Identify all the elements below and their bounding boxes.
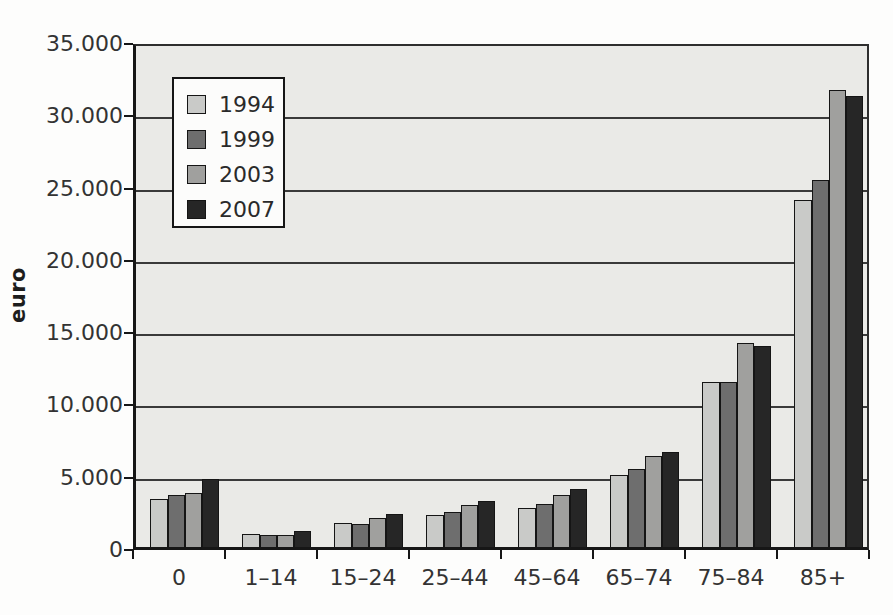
- gridline: [136, 262, 867, 264]
- bar-1999-15–24: [352, 524, 369, 547]
- bar-2003-75–84: [737, 343, 754, 547]
- x-tick-mark: [408, 550, 410, 559]
- legend-label: 2007: [219, 197, 275, 222]
- x-tick-mark: [592, 550, 594, 559]
- bar-2003-0: [185, 493, 202, 547]
- legend-item-1999: 1999: [187, 122, 283, 157]
- y-tick-mark: [124, 43, 133, 45]
- bar-2007-25–44: [478, 501, 495, 547]
- y-tick-label: 10.000: [28, 394, 123, 416]
- bar-1994-75–84: [702, 382, 719, 547]
- x-tick-mark: [684, 550, 686, 559]
- x-tick-mark: [500, 550, 502, 559]
- bar-1994-0: [150, 499, 167, 547]
- x-tick-label: 0: [133, 566, 225, 590]
- x-tick-mark: [868, 550, 870, 559]
- x-tick-label: 65–74: [593, 566, 685, 590]
- bar-1999-85+: [812, 180, 829, 547]
- bar-1994-65–74: [610, 475, 627, 547]
- legend-item-2007: 2007: [187, 192, 283, 227]
- legend-swatch-1999: [187, 130, 206, 149]
- legend-label: 1999: [219, 127, 275, 152]
- bar-2007-85+: [846, 96, 863, 547]
- x-tick-mark: [316, 550, 318, 559]
- bar-1994-25–44: [426, 515, 443, 547]
- bar-2003-65–74: [645, 456, 662, 547]
- y-tick-label: 20.000: [28, 250, 123, 272]
- bar-2003-15–24: [369, 518, 386, 547]
- y-tick-mark: [124, 332, 133, 334]
- bar-2007-1–14: [294, 531, 311, 547]
- bar-1999-0: [168, 495, 185, 547]
- bar-1994-45–64: [518, 508, 535, 547]
- x-tick-label: 1–14: [225, 566, 317, 590]
- x-tick-label: 75–84: [685, 566, 777, 590]
- bar-1999-65–74: [628, 469, 645, 547]
- bar-2003-45–64: [553, 495, 570, 547]
- y-tick-mark: [124, 477, 133, 479]
- bar-1999-1–14: [260, 535, 277, 547]
- y-tick-label: 30.000: [28, 105, 123, 127]
- bar-2007-65–74: [662, 452, 679, 547]
- bar-1999-25–44: [444, 512, 461, 547]
- x-tick-mark: [132, 550, 134, 559]
- legend-label: 2003: [219, 162, 275, 187]
- legend-item-2003: 2003: [187, 157, 283, 192]
- y-tick-mark: [124, 260, 133, 262]
- y-tick-mark: [124, 115, 133, 117]
- bar-2007-15–24: [386, 514, 403, 547]
- x-tick-label: 45–64: [501, 566, 593, 590]
- y-axis-title: euro: [6, 235, 30, 355]
- bar-2007-0: [202, 479, 219, 547]
- bar-1999-75–84: [720, 382, 737, 547]
- legend-items: 1994199920032007: [187, 87, 283, 227]
- x-tick-label: 25–44: [409, 566, 501, 590]
- bar-1994-85+: [794, 200, 811, 547]
- bar-chart-figure: euro 05.00010.00015.00020.00025.00030.00…: [0, 0, 893, 615]
- legend: 1994199920032007: [172, 77, 285, 228]
- x-tick-label: 15–24: [317, 566, 409, 590]
- legend-swatch-2007: [187, 200, 206, 219]
- y-tick-label: 5.000: [28, 467, 123, 489]
- bar-1994-1–14: [242, 534, 259, 547]
- bar-1994-15–24: [334, 523, 351, 547]
- legend-swatch-2003: [187, 165, 206, 184]
- y-tick-label: 35.000: [28, 33, 123, 55]
- x-tick-mark: [224, 550, 226, 559]
- bar-2003-1–14: [277, 535, 294, 547]
- x-tick-label: 85+: [777, 566, 869, 590]
- legend-item-1994: 1994: [187, 87, 283, 122]
- y-tick-label: 15.000: [28, 322, 123, 344]
- bar-2007-45–64: [570, 489, 587, 547]
- bar-2003-85+: [829, 90, 846, 547]
- legend-swatch-1994: [187, 95, 206, 114]
- bar-2007-75–84: [754, 346, 771, 547]
- y-tick-label: 0: [28, 539, 123, 561]
- gridline: [136, 334, 867, 336]
- bar-1999-45–64: [536, 504, 553, 547]
- y-tick-mark: [124, 404, 133, 406]
- legend-label: 1994: [219, 92, 275, 117]
- y-tick-mark: [124, 188, 133, 190]
- x-tick-mark: [776, 550, 778, 559]
- y-tick-label: 25.000: [28, 178, 123, 200]
- bar-2003-25–44: [461, 505, 478, 547]
